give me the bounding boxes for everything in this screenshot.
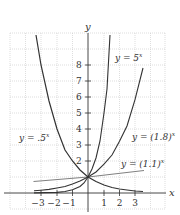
label-5-pow-x: y = 5x xyxy=(114,51,143,63)
exponential-functions-chart: 8 7 6 5 4 3 2 −3 −2 −1 1 2 3 y x y = 5x … xyxy=(0,0,180,215)
y-tick-label: 5 xyxy=(76,108,82,118)
y-tick-label: 7 xyxy=(76,76,82,86)
svg-text:y = (1.1)x: y = (1.1)x xyxy=(120,157,165,169)
x-tick-label: 1 xyxy=(101,198,107,208)
y-tick-label: 2 xyxy=(76,156,82,166)
svg-text:y = (1.8)x: y = (1.8)x xyxy=(131,130,176,142)
label-1-8-pow-x: y = (1.8)x xyxy=(131,130,176,142)
x-tick-label: −1 xyxy=(62,198,75,208)
y-tick-label: 8 xyxy=(76,60,82,70)
x-tick-label: 3 xyxy=(132,198,138,208)
x-axis-label: x xyxy=(169,187,175,198)
axes xyxy=(4,33,166,212)
x-tick-label: −3 xyxy=(31,198,45,208)
grid xyxy=(10,33,165,209)
x-tick-label: 2 xyxy=(117,198,123,208)
label-0-5-pow-x: y = .5x xyxy=(18,131,50,143)
y-tick-label: 3 xyxy=(76,140,82,150)
y-tick-label: 4 xyxy=(76,124,82,134)
x-tick-label: −2 xyxy=(47,198,60,208)
y-tick-label: 6 xyxy=(76,92,82,102)
label-1-1-pow-x: y = (1.1)x xyxy=(120,157,165,169)
y-axis-label: y xyxy=(84,21,91,32)
svg-text:y = .5x: y = .5x xyxy=(18,131,50,143)
svg-text:y = 5x: y = 5x xyxy=(114,51,143,63)
